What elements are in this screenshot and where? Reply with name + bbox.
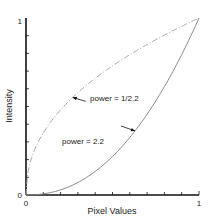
x-tick-label-1: 1 [197,199,202,208]
series-line-1 [26,18,199,195]
series-line-0 [26,18,199,195]
chart: Pixel Values Intensity 0 1 0 1 power = 1… [0,0,214,223]
annotation-arrowhead-1 [131,128,135,131]
annotation-gamma: power = 2.2 [62,137,105,146]
annotation-arrowhead-0 [73,97,77,100]
y-tick-label-0: 0 [18,191,23,200]
x-tick-label-0: 0 [24,199,29,208]
y-tick-label-1: 1 [18,17,23,26]
x-axis-label: Pixel Values [88,206,137,216]
annotation-gamma-inverse: power = 1/2.2 [90,94,139,103]
y-axis-label: Intensity [4,89,14,123]
